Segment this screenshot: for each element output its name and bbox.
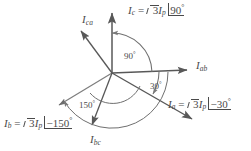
label-ic-degree: ° <box>181 3 184 12</box>
label-ib-angle-notation: −150° <box>44 117 73 129</box>
label-ib-subscript: b <box>8 121 12 130</box>
label-iab: Iab <box>196 60 208 72</box>
label-ic: Ic = 3Ip90° <box>128 4 184 17</box>
label-ica: Ica <box>82 14 93 26</box>
label-ia-subscript: a <box>172 102 176 111</box>
label-ic-phase-subscript: p <box>162 8 166 17</box>
label-ia-coefficient: 3 <box>187 99 198 110</box>
label-angle-150-degree: ° <box>93 99 96 106</box>
label-angle-90: 90° <box>124 51 136 61</box>
label-ib-coefficient: 3 <box>23 118 34 129</box>
label-ia-angle-value: −30 <box>211 98 228 110</box>
vector-iab <box>112 70 187 73</box>
label-ib-phase-subscript: p <box>38 121 42 130</box>
label-ia-equals: = <box>178 98 184 110</box>
label-ica-subscript: ca <box>86 18 93 27</box>
label-angle-150-value: 150 <box>79 100 93 110</box>
label-angle-30-value: 30 <box>150 81 159 91</box>
label-angle-90-value: 90 <box>124 51 133 61</box>
label-ibc-subscript: bc <box>94 138 101 147</box>
label-ic-angle-notation: 90° <box>167 4 184 16</box>
label-ic-subscript: c <box>132 8 136 17</box>
label-ib-equals: = <box>14 117 20 129</box>
label-ia-phase-subscript: p <box>202 102 206 111</box>
label-ia: Ia = 3Ip−30° <box>168 98 231 111</box>
label-angle-30-degree: ° <box>159 80 162 87</box>
label-ia-angle-notation: −30° <box>208 98 231 110</box>
label-ib-angle-value: −150 <box>47 117 70 129</box>
label-angle-150: 150° <box>79 100 95 110</box>
label-ic-coefficient: 3 <box>147 5 158 16</box>
label-ic-angle-value: 90 <box>170 4 181 16</box>
label-angle-30: 30° <box>150 81 162 91</box>
label-angle-90-degree: ° <box>133 50 136 57</box>
arc-150-inner <box>90 86 140 103</box>
label-ia-degree: ° <box>228 97 231 106</box>
label-ib-degree: ° <box>69 116 72 125</box>
vector-ica <box>81 31 112 73</box>
phasor-diagram-figure: Ic = 3Ip90° Ia = 3Ip−30° Ib = 3Ip−150° I… <box>0 0 251 151</box>
label-ic-equals: = <box>138 4 144 16</box>
label-iab-subscript: ab <box>200 64 208 73</box>
label-ib: Ib = 3Ip−150° <box>4 117 72 130</box>
label-ibc: Ibc <box>90 134 101 146</box>
